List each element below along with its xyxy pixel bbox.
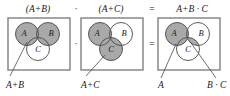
panel-3-callout-label-A: A	[157, 80, 164, 90]
panel-3-formula-label: A+B · C	[175, 4, 208, 14]
panel-1-label-C: C	[35, 44, 41, 54]
top-operator-dot: ·	[74, 4, 77, 14]
panel-3-callout-label-BC: B · C	[207, 80, 227, 90]
top-equals-sign: =	[149, 4, 154, 14]
panel-2-label-C: C	[108, 44, 114, 54]
panel-3-label-C: C	[185, 44, 191, 54]
panel-1-label-A: A	[20, 28, 27, 38]
panel-1-label-B: B	[48, 28, 53, 38]
panel-2-label-A: A	[93, 28, 100, 38]
panel-1-formula-label: (A+B)	[26, 4, 50, 15]
middle-equals-sign: =	[149, 39, 154, 49]
middle-operator-dot: ·	[74, 39, 77, 49]
panel-3-label-A: A	[170, 28, 177, 38]
boolean-distributive-law-figure: (A+B) · (A+C) = A+B · C · = A B C A+B	[0, 0, 230, 96]
panel-3-label-B: B	[198, 28, 203, 38]
panel-2-venn-diagram: A B C A+C	[80, 18, 143, 90]
panel-2-formula-label: (A+C)	[99, 4, 124, 15]
panel-2-label-B: B	[121, 28, 126, 38]
panel-1-callout-label: A+B	[5, 80, 24, 90]
panel-2-callout-label: A+C	[80, 80, 100, 90]
panel-3-venn-diagram: A B C A B · C	[157, 18, 227, 90]
panel-1-venn-diagram: A B C A+B	[5, 18, 70, 90]
